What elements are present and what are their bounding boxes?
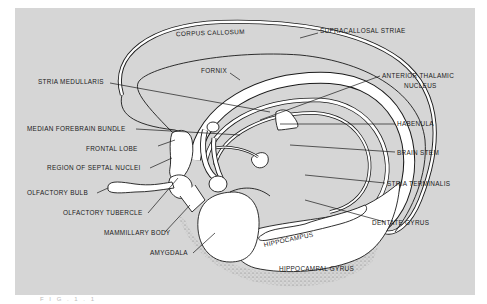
- label-amygdala: AMYGDALA: [150, 250, 188, 256]
- label-fornix: FORNIX: [201, 68, 227, 74]
- label-anterior-thalamic-2: NUCLEUS: [404, 83, 437, 89]
- olfactory-bulb-shape: [108, 182, 174, 193]
- label-hippocampal-gyrus: HIPPOCAMPAL GYRUS: [279, 266, 354, 272]
- label-brain-stem: BRAIN STEM: [397, 150, 439, 156]
- label-median-forebrain-bundle: MEDIAN FOREBRAIN BUNDLE: [27, 126, 126, 132]
- label-stria-medullaris: STRIA MEDULLARIS: [38, 79, 104, 85]
- label-stria-terminalis: STRIA TERMINALIS: [387, 181, 450, 187]
- label-habenula: HABENULA: [397, 121, 434, 127]
- label-frontal-lobe: FRONTAL LOBE: [86, 146, 138, 152]
- label-dentate-gyrus: DENTATE GYRUS: [372, 220, 429, 226]
- label-olfactory-tubercle: OLFACTORY TUBERCLE: [63, 210, 143, 216]
- figure-caption-fragment: F I G . 1 . 1: [40, 296, 96, 302]
- label-olfactory-bulb: OLFACTORY BULB: [27, 190, 88, 196]
- frontal-lobe-shape: [170, 130, 193, 180]
- label-supracallosal-striae: SUPRACALLOSAL STRIAE: [320, 28, 406, 34]
- amygdala-shape: [198, 192, 259, 262]
- label-region-septal-nuclei: REGION OF SEPTAL NUCLEI: [47, 165, 141, 171]
- label-anterior-thalamic-1: ANTERIOR THALAMIC: [382, 73, 454, 79]
- label-mammillary-body: MAMMILLARY BODY: [104, 230, 170, 236]
